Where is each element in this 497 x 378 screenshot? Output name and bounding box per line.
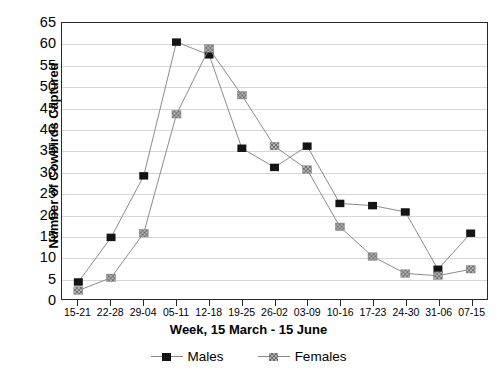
series-layer (62, 23, 487, 299)
data-point-marker (270, 164, 279, 171)
data-point-marker (237, 145, 246, 152)
y-tick-label: 55 (24, 58, 56, 73)
x-tick-label: 07-15 (449, 306, 495, 318)
data-point-marker (139, 230, 148, 237)
data-point-marker (172, 38, 181, 45)
y-tick-label: 10 (24, 250, 56, 265)
series-line-males (78, 42, 470, 282)
data-point-marker (74, 278, 83, 285)
legend-swatch-males-icon (151, 351, 183, 363)
y-tick-label: 25 (24, 186, 56, 201)
data-point-marker (401, 270, 410, 277)
y-tick-label: 45 (24, 100, 56, 115)
y-tick-label: 15 (24, 229, 56, 244)
data-point-marker (303, 166, 312, 173)
data-point-marker (303, 142, 312, 149)
plot-area (61, 22, 488, 300)
data-point-marker (107, 274, 116, 281)
data-point-marker (335, 200, 344, 207)
legend-entry-females: Females (258, 349, 347, 364)
y-tick-label: 60 (24, 36, 56, 51)
data-point-marker (237, 92, 246, 99)
chart-legend: Males Females (0, 349, 497, 364)
data-point-marker (172, 111, 181, 118)
y-tick-label: 20 (24, 207, 56, 222)
data-point-marker (270, 142, 279, 149)
y-tick-label: 35 (24, 143, 56, 158)
y-tick-label: 30 (24, 164, 56, 179)
data-point-marker (466, 266, 475, 273)
data-point-marker (368, 253, 377, 260)
data-point-marker (368, 202, 377, 209)
data-point-marker (205, 45, 214, 52)
legend-label-males: Males (188, 349, 224, 364)
legend-swatch-females-icon (258, 351, 290, 363)
data-point-marker (107, 234, 116, 241)
legend-label-females: Females (295, 349, 347, 364)
data-point-marker (401, 208, 410, 215)
data-point-marker (433, 272, 442, 279)
y-tick-label: 65 (24, 15, 56, 30)
y-tick-label: 5 (24, 271, 56, 286)
cowbird-capture-line-chart: Number of Cowbirds Captured 051015202530… (0, 0, 497, 378)
data-point-marker (74, 287, 83, 294)
data-point-marker (139, 172, 148, 179)
y-tick-label: 40 (24, 122, 56, 137)
legend-entry-males: Males (151, 349, 224, 364)
x-axis-title: Week, 15 March - 15 June (0, 322, 497, 337)
data-point-marker (335, 223, 344, 230)
y-tick-label: 50 (24, 79, 56, 94)
data-point-marker (466, 230, 475, 237)
